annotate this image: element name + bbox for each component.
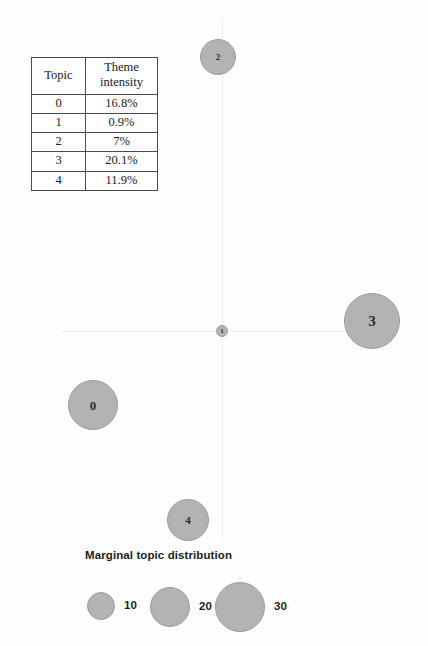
y-axis-line — [222, 18, 223, 538]
table-row: 1 0.9% — [32, 113, 158, 132]
column-header-theme-line1: Theme — [86, 60, 157, 75]
table-row: 4 11.9% — [32, 171, 158, 190]
cell-intensity: 16.8% — [86, 94, 158, 113]
cell-topic: 3 — [32, 152, 86, 171]
column-header-theme-line2: intensity — [86, 75, 157, 90]
legend-label-20: 20 — [199, 600, 212, 612]
legend-bubble-30 — [215, 582, 265, 632]
column-header-theme-intensity: Theme intensity — [86, 58, 158, 95]
cell-intensity: 0.9% — [86, 113, 158, 132]
topic-bubble-label: 1 — [220, 328, 224, 335]
topic-bubble-1[interactable]: 1 — [216, 325, 228, 337]
cell-intensity: 11.9% — [86, 171, 158, 190]
table-row: 2 7% — [32, 133, 158, 152]
theme-intensity-table: Topic Theme intensity 0 16.8% 1 0.9% 2 7… — [31, 57, 158, 191]
topic-bubble-label: 4 — [185, 515, 191, 526]
legend-label-10: 10 — [124, 599, 137, 611]
topic-bubble-3[interactable]: 3 — [344, 293, 400, 349]
legend-bubble-20 — [150, 587, 190, 627]
topic-bubble-label: 2 — [216, 53, 221, 62]
topic-bubble-label: 3 — [368, 314, 376, 329]
table-row: 3 20.1% — [32, 152, 158, 171]
legend-title: Marginal topic distribution — [85, 549, 232, 561]
cell-topic: 1 — [32, 113, 86, 132]
topic-bubble-4[interactable]: 4 — [167, 499, 209, 541]
topic-bubble-label: 0 — [90, 399, 97, 412]
topic-bubble-0[interactable]: 0 — [68, 380, 118, 430]
cell-intensity: 7% — [86, 133, 158, 152]
table-row: 0 16.8% — [32, 94, 158, 113]
legend-label-30: 30 — [274, 600, 287, 612]
cell-topic: 0 — [32, 94, 86, 113]
cell-topic: 2 — [32, 133, 86, 152]
cell-topic: 4 — [32, 171, 86, 190]
topic-bubble-2[interactable]: 2 — [200, 39, 236, 75]
cell-intensity: 20.1% — [86, 152, 158, 171]
column-header-topic: Topic — [32, 58, 86, 95]
table-header-row: Topic Theme intensity — [32, 58, 158, 95]
figure-canvas: Topic Theme intensity 0 16.8% 1 0.9% 2 7… — [0, 0, 428, 646]
legend-bubble-10 — [87, 592, 115, 620]
